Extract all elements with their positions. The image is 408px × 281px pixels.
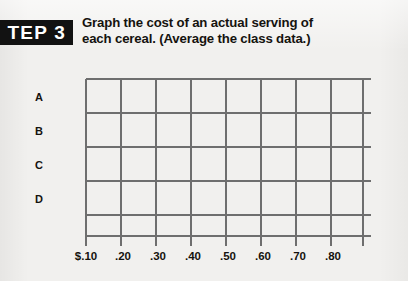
worksheet-page: TEP 3 Graph the cost of an actual servin…	[0, 0, 408, 281]
x-axis-label-7: .80	[313, 250, 353, 262]
x-axis-label-6: .70	[278, 250, 318, 262]
x-axis-label-4: .50	[208, 250, 248, 262]
step-number-badge: TEP 3	[0, 20, 73, 45]
row-label-b: B	[32, 125, 46, 137]
row-label-d: D	[32, 193, 46, 205]
page-title: Graph the cost of an actual serving of e…	[82, 15, 402, 47]
row-label-a: A	[32, 91, 46, 103]
step-header: TEP 3 Graph the cost of an actual servin…	[0, 10, 408, 56]
x-axis-label-1: .20	[103, 250, 143, 262]
x-axis-label-0: $.10	[66, 250, 106, 262]
x-axis-label-3: .40	[173, 250, 213, 262]
page-title-line-1: Graph the cost of an actual serving of	[82, 15, 402, 31]
x-axis-label-5: .60	[243, 250, 283, 262]
row-label-c: C	[32, 159, 46, 171]
x-axis-label-2: .30	[138, 250, 178, 262]
page-title-line-2: each cereal. (Average the class data.)	[82, 31, 402, 47]
